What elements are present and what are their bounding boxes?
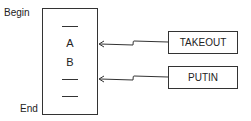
connector-arrows — [0, 0, 251, 121]
takeout-box: TAKEOUT — [168, 31, 238, 54]
putin-connector — [100, 76, 168, 80]
putin-box: PUTIN — [168, 66, 238, 89]
takeout-connector — [100, 41, 168, 45]
